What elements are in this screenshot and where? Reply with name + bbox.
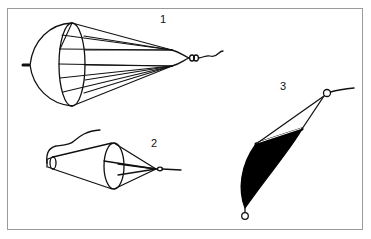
parachute-sea-anchor-1 <box>23 23 223 106</box>
figure-label-3: 3 <box>280 80 286 92</box>
figure-label-2: 2 <box>151 137 157 149</box>
sheet-drogue-3 <box>241 88 354 219</box>
figure-label-1: 1 <box>160 13 166 25</box>
drogue-illustrations <box>0 0 371 239</box>
cone-drogue-2 <box>47 130 181 189</box>
